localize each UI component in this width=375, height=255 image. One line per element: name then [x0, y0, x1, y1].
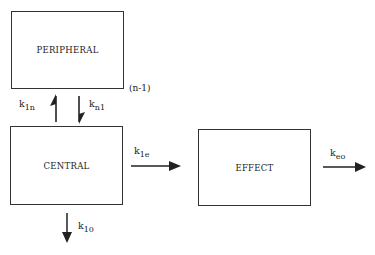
rate-k1e: k1e — [134, 145, 150, 159]
rate-kn1-sub: n1 — [95, 103, 105, 112]
rate-k1e-sub: 1e — [140, 150, 150, 159]
rate-keo-sub: eo — [336, 152, 346, 161]
arrow-down-icon — [62, 213, 72, 243]
arrow-right-icon — [131, 161, 181, 171]
arrow-down-icon — [79, 96, 85, 124]
rate-keo: keo — [330, 147, 345, 161]
rate-kn1: kn1 — [89, 98, 105, 112]
rate-k1n-sub: 1n — [25, 103, 35, 112]
arrow-right-icon — [323, 162, 366, 172]
arrows-layer — [0, 0, 375, 255]
rate-k1n: k1n — [19, 98, 35, 112]
arrow-up-icon — [50, 94, 56, 122]
rate-k10-sub: 10 — [84, 225, 94, 234]
rate-k10: k10 — [78, 220, 94, 234]
